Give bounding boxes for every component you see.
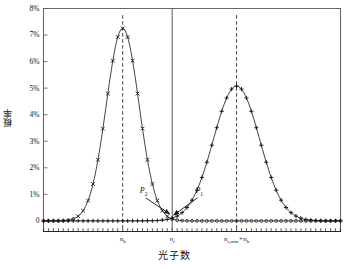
y-tick-label: 4% — [16, 110, 40, 119]
data-point-marker — [91, 219, 95, 223]
data-point-marker — [215, 126, 219, 130]
data-point-marker — [145, 219, 149, 223]
data-point-marker — [324, 219, 328, 223]
probability-distribution-chart — [0, 0, 348, 267]
data-point-marker — [244, 96, 248, 100]
p2-label: P2 — [140, 186, 148, 197]
data-point-marker — [76, 219, 80, 223]
data-point-marker — [101, 219, 105, 223]
data-point-marker — [269, 175, 273, 179]
data-point-marker — [96, 219, 100, 223]
y-axis-ticks — [44, 9, 48, 221]
y-tick-label: 0 — [16, 216, 40, 225]
y-tick-label: 3% — [16, 137, 40, 146]
data-point-marker — [254, 126, 258, 130]
data-point-marker — [225, 96, 229, 100]
data-point-marker — [111, 219, 115, 223]
x-axis-title: 光子数 — [0, 247, 348, 262]
data-point-marker — [338, 219, 342, 223]
data-point-marker — [329, 219, 333, 223]
data-point-marker — [205, 160, 209, 164]
data-point-marker — [81, 219, 85, 223]
data-point-marker — [155, 199, 159, 203]
data-point-marker — [76, 214, 80, 218]
chart-root: 概率 光子数 8%7%6%5%4%3%2%1%0 nbntns,min+nb P… — [0, 0, 348, 267]
data-point-marker — [116, 219, 120, 223]
y-tick-label: 2% — [16, 163, 40, 172]
data-point-marker — [264, 160, 268, 164]
data-point-marker — [210, 143, 214, 147]
y-tick-label: 7% — [16, 30, 40, 39]
data-point-marker — [160, 218, 164, 222]
data-point-marker — [140, 219, 144, 223]
data-point-marker — [81, 209, 85, 213]
data-point-marker — [135, 219, 139, 223]
annotation-arrows — [146, 198, 198, 215]
data-point-marker — [299, 216, 303, 220]
curve-line — [44, 28, 341, 220]
vertical-reference-lines — [123, 9, 237, 232]
data-point-marker — [319, 219, 323, 223]
data-point-marker — [51, 219, 55, 223]
data-point-marker — [234, 84, 238, 88]
data-point-marker — [41, 219, 45, 223]
curve-p2-background — [42, 27, 342, 223]
data-point-marker — [61, 219, 65, 223]
data-point-marker — [200, 175, 204, 179]
data-point-marker — [294, 214, 298, 218]
data-point-marker — [274, 188, 278, 192]
x-tick-label: ns,min+nb — [224, 235, 249, 244]
data-point-marker — [279, 198, 283, 202]
data-point-marker — [56, 219, 60, 223]
data-point-marker — [126, 219, 130, 223]
data-point-marker — [220, 109, 224, 113]
data-point-marker — [131, 219, 135, 223]
x-axis-ticks — [44, 228, 341, 231]
data-point-marker — [249, 109, 253, 113]
y-tick-label: 1% — [16, 190, 40, 199]
p1-arrow — [174, 198, 198, 215]
data-point-marker — [175, 214, 179, 218]
y-axis-title: 概率 — [2, 96, 16, 140]
y-tick-label: 5% — [16, 84, 40, 93]
data-point-marker — [106, 219, 110, 223]
y-tick-label: 8% — [16, 4, 40, 13]
data-point-marker — [46, 219, 50, 223]
data-point-marker — [86, 219, 90, 223]
p1-label: P1 — [195, 186, 203, 197]
data-point-marker — [121, 219, 125, 223]
data-point-marker — [150, 219, 154, 223]
x-tick-label: nb — [120, 235, 126, 244]
data-point-marker — [333, 219, 337, 223]
x-tick-label: nt — [170, 235, 175, 244]
data-point-marker — [259, 143, 263, 147]
y-tick-label: 6% — [16, 57, 40, 66]
data-point-marker — [86, 199, 90, 203]
data-point-marker — [155, 218, 159, 222]
